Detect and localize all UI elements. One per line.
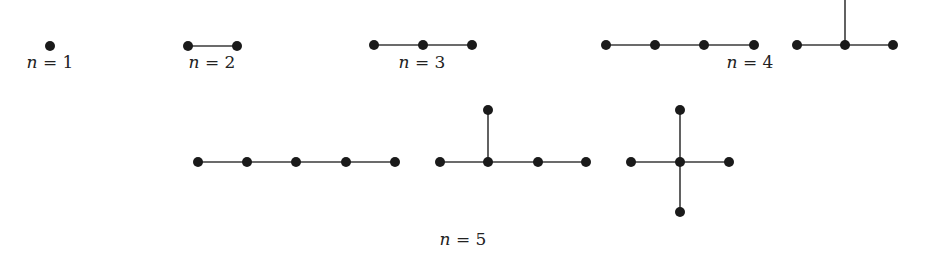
vertex [675,157,685,167]
vertex [749,40,759,50]
vertex [467,40,477,50]
tree [193,157,400,167]
vertex [840,40,850,50]
tree [369,40,477,50]
vertex [232,41,242,51]
trees-diagram: n = 1n = 2n = 3n = 4n = 5 [0,0,932,253]
tree [183,41,242,51]
tree [601,40,759,50]
vertex [242,157,252,167]
vertex [418,40,428,50]
tree [45,41,55,51]
tree-group-n3 [369,40,477,50]
vertex [193,157,203,167]
label-n1: n = 1 [27,52,74,72]
label-value: = 3 [410,52,446,72]
vertex [888,40,898,50]
tree-group-n5 [193,105,734,217]
vertex [533,157,543,167]
vertex [341,157,351,167]
label-variable: n [399,52,410,72]
label-variable: n [27,52,38,72]
label-n4: n = 4 [727,52,774,72]
label-value: = 2 [200,52,236,72]
vertex [650,40,660,50]
vertex [601,40,611,50]
label-value: = 1 [38,52,74,72]
vertex [435,157,445,167]
tree-group-n1 [45,41,55,51]
vertex [581,157,591,167]
vertex [675,207,685,217]
vertex [792,40,802,50]
label-value: = 4 [738,52,774,72]
vertex [626,157,636,167]
label-n5: n = 5 [440,229,487,249]
vertex [675,105,685,115]
label-n2: n = 2 [189,52,236,72]
vertex [369,40,379,50]
vertex [183,41,193,51]
tree-group-n2 [183,41,242,51]
tree [435,105,591,167]
label-n3: n = 3 [399,52,446,72]
vertex [483,105,493,115]
vertex [291,157,301,167]
vertex [390,157,400,167]
label-variable: n [727,52,738,72]
vertex [699,40,709,50]
tree [792,0,898,50]
tree-group-n4 [601,0,898,50]
vertex [45,41,55,51]
label-variable: n [440,229,451,249]
vertex [724,157,734,167]
label-variable: n [189,52,200,72]
tree-graphs [0,0,932,253]
label-value: = 5 [451,229,487,249]
vertex [483,157,493,167]
tree [626,105,734,217]
